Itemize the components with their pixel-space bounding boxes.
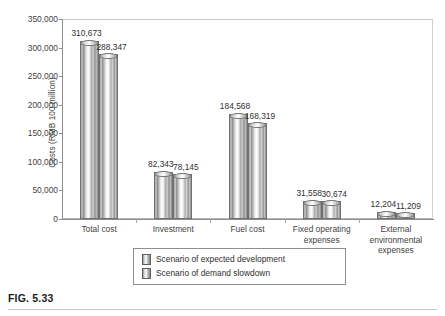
y-axis-tick-label: 250,000	[6, 71, 58, 81]
bar	[303, 201, 322, 219]
bar	[377, 212, 396, 219]
y-axis-tick-label: 0	[6, 214, 58, 224]
bar	[248, 123, 267, 219]
legend-swatch-icon	[142, 254, 151, 265]
x-axis-tick-mark	[359, 219, 360, 223]
chart-legend: Scenario of expected development Scenari…	[133, 248, 346, 285]
bar-value-label: 30,674	[317, 189, 351, 199]
y-axis-tick-label: 350,000	[6, 14, 58, 24]
x-axis-tick-mark	[285, 219, 286, 223]
x-axis-category-label: Investment	[132, 224, 214, 235]
y-axis-tick-label: 150,000	[6, 128, 58, 138]
bar	[154, 172, 173, 219]
bar-value-label: 11,209	[391, 201, 425, 211]
y-axis-tick-mark	[59, 76, 63, 77]
y-axis-tick-mark	[59, 48, 63, 49]
y-axis-tick-label: 50,000	[6, 185, 58, 195]
bar-value-label: 184,568	[218, 101, 252, 111]
y-axis-tick-mark	[59, 219, 63, 220]
y-axis-tick-mark	[59, 19, 63, 20]
x-axis-category-label: Total cost	[58, 224, 140, 235]
bar	[80, 41, 99, 219]
x-axis-tick-mark	[210, 219, 211, 223]
y-axis-tick-mark	[59, 190, 63, 191]
legend-swatch-icon	[142, 268, 151, 279]
x-axis-line	[62, 219, 434, 220]
y-axis-tick-mark	[59, 162, 63, 163]
y-axis-tick-label: 100,000	[6, 157, 58, 167]
legend-label: Scenario of expected development	[156, 254, 285, 264]
legend-item: Scenario of demand slowdown	[142, 267, 339, 279]
figure-caption: FIG. 5.33	[8, 292, 54, 304]
x-axis-category-label: Fuel cost	[206, 224, 288, 235]
legend-item: Scenario of expected development	[142, 253, 339, 265]
y-axis-tick-mark	[59, 133, 63, 134]
y-axis-tick-label: 300,000	[6, 43, 58, 53]
bar-value-label: 288,347	[95, 42, 129, 52]
bar	[396, 213, 415, 219]
y-axis-tick-mark	[59, 105, 63, 106]
x-axis-category-label: Fixed operating expenses	[281, 224, 363, 245]
figure-container: Costs (RMB 100 million) 350,000300,00025…	[0, 0, 445, 316]
bar-value-label: 168,319	[243, 111, 277, 121]
y-axis-tick-label: 200,000	[6, 100, 58, 110]
bar-value-label: 310,673	[70, 28, 104, 38]
bar-value-label: 78,145	[169, 162, 203, 172]
x-axis-tick-mark	[136, 219, 137, 223]
bar	[99, 54, 118, 219]
x-axis-category-label: External environmental expenses	[355, 224, 437, 256]
legend-label: Scenario of demand slowdown	[156, 268, 270, 278]
caption-divider	[8, 309, 437, 310]
bar	[173, 174, 192, 219]
bar	[322, 201, 341, 219]
bar	[229, 114, 248, 219]
